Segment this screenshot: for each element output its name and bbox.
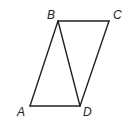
edge-ab (30, 21, 58, 106)
edge-cd (80, 21, 109, 106)
vertex-label-a: A (16, 105, 25, 119)
vertex-label-d: D (83, 105, 92, 119)
vertex-label-b: B (47, 8, 55, 22)
diagonal-bd (58, 21, 80, 106)
parallelogram-diagram: B C A D (0, 0, 129, 125)
vertex-label-c: C (113, 8, 122, 22)
